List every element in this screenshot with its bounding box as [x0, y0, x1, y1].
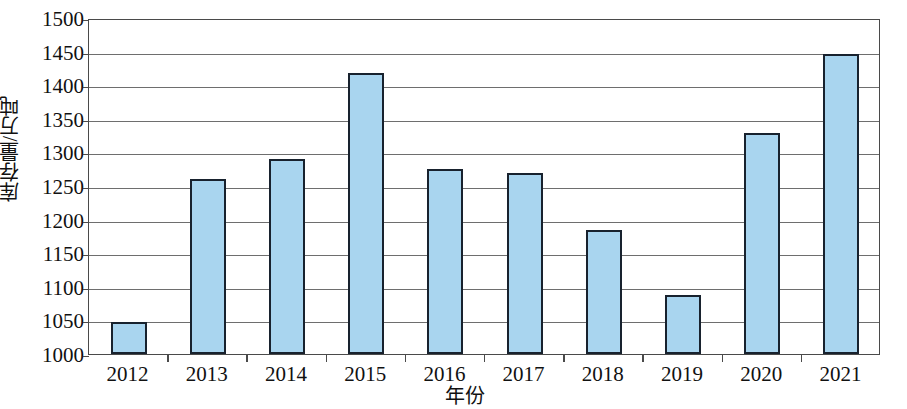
x-tick-mark — [246, 355, 247, 362]
x-tick-mark — [484, 355, 485, 362]
bar — [586, 230, 622, 354]
x-tick-label: 2021 — [819, 362, 861, 386]
x-tick-mark — [642, 355, 643, 362]
bar — [823, 54, 859, 354]
bar — [665, 295, 701, 354]
y-axis-title: 库存量/万吨 — [0, 96, 22, 202]
bar — [427, 169, 463, 354]
y-tick-label: 1000 — [26, 345, 84, 366]
bar — [190, 179, 226, 354]
x-axis-title-text: 年份 — [445, 385, 485, 407]
x-axis-title: 年份 — [0, 385, 907, 407]
bars-layer — [89, 20, 879, 354]
y-tick-label: 1100 — [26, 277, 84, 298]
x-tick-label: 2012 — [107, 362, 149, 386]
y-tick-label: 1150 — [26, 244, 84, 265]
x-tick-label: 2016 — [423, 362, 465, 386]
y-tick-label: 1250 — [26, 177, 84, 198]
x-tick-label: 2014 — [265, 362, 307, 386]
bar — [744, 133, 780, 354]
x-tick-label: 2015 — [344, 362, 386, 386]
x-tick-mark — [801, 355, 802, 362]
x-tick-mark — [722, 355, 723, 362]
bar — [111, 322, 147, 354]
x-tick-label: 2019 — [661, 362, 703, 386]
y-tick-label: 1300 — [26, 143, 84, 164]
bar-chart: 库存量/万吨 100010501100115012001250130013501… — [0, 0, 907, 409]
y-axis-tick-labels: 1000105011001150120012501300135014001450… — [24, 0, 84, 409]
y-tick-label: 1450 — [26, 42, 84, 63]
x-tick-mark — [405, 355, 406, 362]
y-tick-mark — [83, 356, 89, 357]
y-tick-label: 1400 — [26, 76, 84, 97]
x-tick-label: 2020 — [740, 362, 782, 386]
x-tick-mark — [563, 355, 564, 362]
y-tick-label: 1200 — [26, 210, 84, 231]
x-tick-label: 2018 — [582, 362, 624, 386]
y-tick-label: 1350 — [26, 109, 84, 130]
x-tick-mark — [167, 355, 168, 362]
bar — [269, 159, 305, 354]
y-tick-label: 1050 — [26, 311, 84, 332]
plot-area — [88, 19, 880, 355]
bar — [348, 73, 384, 354]
x-tick-label: 2013 — [186, 362, 228, 386]
bar — [507, 173, 543, 354]
x-tick-label: 2017 — [503, 362, 545, 386]
x-tick-mark — [326, 355, 327, 362]
y-tick-label: 1500 — [26, 9, 84, 30]
